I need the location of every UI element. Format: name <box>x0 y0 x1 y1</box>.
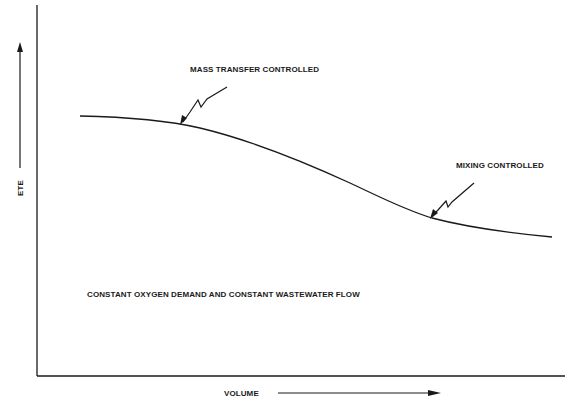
y-axis-label: ETE <box>16 180 25 196</box>
ete-curve <box>80 116 552 237</box>
diagram-canvas <box>0 0 575 413</box>
x-axis-label: VOLUME <box>224 389 259 398</box>
mass-transfer-pointer-arrow-icon <box>180 87 227 125</box>
y-direction-arrow-icon <box>17 42 23 168</box>
annotation-mixing: MIXING CONTROLLED <box>456 161 544 170</box>
annotation-mass-transfer: MASS TRANSFER CONTROLLED <box>190 65 319 74</box>
x-direction-arrow-icon <box>278 390 441 396</box>
mixing-pointer-arrow-icon <box>430 183 474 219</box>
condition-note: CONSTANT OXYGEN DEMAND AND CONSTANT WAST… <box>87 290 360 299</box>
